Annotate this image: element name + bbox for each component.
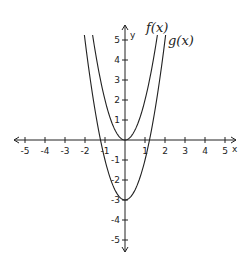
x-tick-label: 2 [162,146,168,156]
x-tick-label: -3 [61,146,70,156]
y-axis-label: y [130,30,136,40]
y-tick-label: -1 [111,155,120,165]
y-tick-label: 4 [114,55,120,65]
x-tick-label: -4 [41,146,50,156]
y-tick-label: 5 [114,35,120,45]
x-tick-label: -2 [81,146,90,156]
x-tick-label: 4 [202,146,208,156]
g-label: g(x) [168,33,194,48]
f-label: f(x) [145,20,168,35]
x-axis-label: x [232,144,238,154]
coordinate-plane: -5-4-3-2-112345-5-4-3-2-112345 f(x) g(x)… [0,0,250,269]
y-tick-label: 1 [114,115,120,125]
x-tick-label: -5 [21,146,30,156]
y-tick-label: 2 [114,95,120,105]
x-tick-label: 5 [222,146,228,156]
y-tick-label: -4 [111,215,120,225]
axes [14,25,236,252]
y-tick-label: -5 [111,235,120,245]
y-tick-label: 3 [114,75,120,85]
x-tick-label: 3 [182,146,188,156]
